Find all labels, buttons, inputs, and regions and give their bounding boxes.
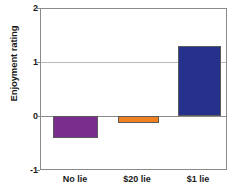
plot-area: [40, 8, 227, 170]
y-axis-title: Enjoyment rating: [8, 0, 19, 129]
x-tick-label-1-lie: $1 lie: [168, 174, 228, 184]
y-tick-label-0: 0: [20, 111, 38, 121]
bar-chart: Enjoyment rating 2 1 0 -1 No lie $20 lie…: [0, 0, 243, 193]
bar-no-lie: [53, 116, 98, 138]
x-tick-label-no-lie: No lie: [45, 174, 105, 184]
y-tick-label-1: 1: [20, 57, 38, 67]
y-tick-label-neg1: -1: [20, 165, 38, 175]
bar-1-lie: [178, 46, 221, 116]
x-tick-label-20-lie: $20 lie: [107, 174, 167, 184]
bar-20-lie: [118, 116, 159, 123]
y-tick-mark-neg1: [37, 170, 40, 171]
y-tick-label-2: 2: [20, 3, 38, 13]
